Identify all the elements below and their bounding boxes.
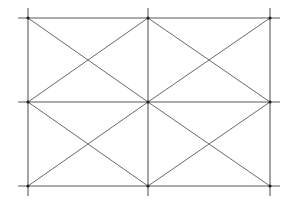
grid-diagram <box>0 0 292 207</box>
intersection-node <box>146 16 149 19</box>
intersection-node <box>26 184 29 187</box>
intersection-node <box>268 100 271 103</box>
intersection-node <box>268 184 271 187</box>
intersection-node <box>26 16 29 19</box>
intersection-node <box>146 184 149 187</box>
intersection-node <box>268 16 271 19</box>
intersection-node <box>146 100 149 103</box>
intersection-node <box>26 100 29 103</box>
